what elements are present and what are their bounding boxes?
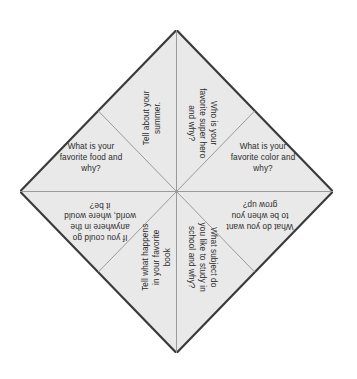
page-canvas: Tell about your summer. Who is your favo…: [0, 0, 357, 379]
section-text-bottom-right: What subject do you like to study in sch…: [186, 207, 218, 307]
section-text-right-low: What do you want to be when you grow up?: [208, 199, 312, 231]
section-text-right-mid: What is your favorite color and why?: [214, 142, 312, 174]
section-text-left-low: If you could go anywhere in the world, w…: [48, 199, 152, 242]
diamond-outline-graphic: [20, 30, 333, 353]
cootie-catcher-diamond: [20, 30, 333, 353]
section-text-top-left: Tell about your summer.: [142, 70, 164, 166]
section-text-left-mid: What is your favorite food and why?: [42, 142, 140, 174]
section-text-bottom-left: Tell what happens in your favorite book: [141, 209, 173, 305]
